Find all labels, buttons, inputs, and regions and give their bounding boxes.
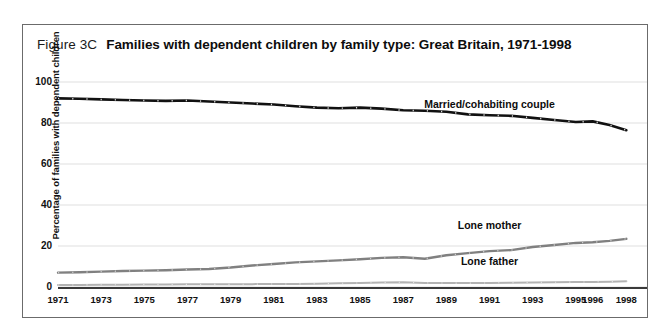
line-chart-svg xyxy=(23,25,649,319)
x-tick-label: 1987 xyxy=(393,294,414,305)
x-tick-label: 1996 xyxy=(582,294,603,305)
x-tick-label: 1977 xyxy=(177,294,198,305)
x-tick-label: 1993 xyxy=(522,294,543,305)
figure-panel: Figure 3CFamilies with dependent childre… xyxy=(22,24,648,318)
x-tick-label: 1991 xyxy=(479,294,500,305)
series-line-texture xyxy=(58,239,626,273)
x-tick-label: 1981 xyxy=(263,294,284,305)
y-tick-label: 80 xyxy=(26,117,52,128)
x-tick-label: 1979 xyxy=(220,294,241,305)
y-tick-label: 0 xyxy=(26,281,52,292)
x-tick-label: 1975 xyxy=(134,294,155,305)
y-tick-label: 60 xyxy=(26,158,52,169)
y-tick-label: 40 xyxy=(26,199,52,210)
x-tick-label: 1971 xyxy=(47,294,68,305)
y-tick-label: 20 xyxy=(26,240,52,251)
x-tick-label: 1998 xyxy=(616,294,637,305)
x-tick-label: 1983 xyxy=(306,294,327,305)
x-tick-label: 1985 xyxy=(349,294,370,305)
series-label: Married/cohabiting couple xyxy=(424,98,555,110)
y-tick-label: 100 xyxy=(26,76,52,87)
chart-plot-area: Percentage of families with dependent ch… xyxy=(23,25,649,319)
x-axis-line xyxy=(58,287,647,289)
x-tick-label: 1973 xyxy=(91,294,112,305)
series-label: Lone mother xyxy=(458,219,522,231)
series-line xyxy=(58,239,626,273)
series-label: Lone father xyxy=(461,255,518,267)
x-tick-label: 1989 xyxy=(436,294,457,305)
